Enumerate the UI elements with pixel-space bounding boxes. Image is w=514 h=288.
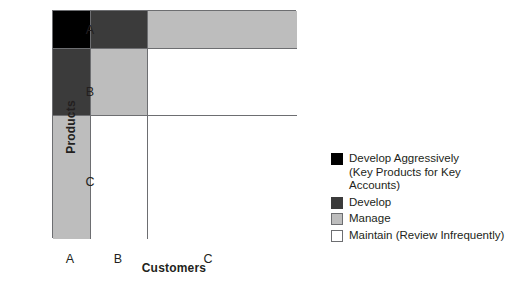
y-tick-label-C: C [82,176,98,189]
legend-swatch-icon [331,197,343,209]
matrix-grid [52,10,296,238]
matrix-cell-C-B [91,116,148,239]
legend-label: Maintain (Review Infrequently) [349,229,504,243]
legend-swatch-icon [331,230,343,242]
legend-label: Develop Aggressively (Key Products for K… [349,152,514,193]
x-axis-title: Customers [52,261,296,275]
legend-swatch-icon [331,213,343,225]
matrix-cell-A-C [148,11,297,49]
legend-item-develop-aggressively: Develop Aggressively (Key Products for K… [331,152,514,193]
chart-legend: Develop Aggressively (Key Products for K… [331,152,514,245]
legend-item-maintain: Maintain (Review Infrequently) [331,229,514,243]
y-tick-label-B: B [82,86,98,99]
legend-item-develop: Develop [331,196,514,210]
legend-label: Develop [349,196,391,210]
matrix-cell-B-B [91,49,148,116]
matrix-cell-C-C [148,116,297,239]
legend-swatch-icon [331,153,343,165]
product-customer-matrix: A B C A B C Products [52,10,296,238]
matrix-cell-A-B [91,11,148,49]
y-axis-title: Products [64,87,78,167]
legend-label: Manage [349,212,391,226]
legend-item-manage: Manage [331,212,514,226]
y-tick-label-A: A [82,24,98,37]
matrix-cell-B-C [148,49,297,116]
